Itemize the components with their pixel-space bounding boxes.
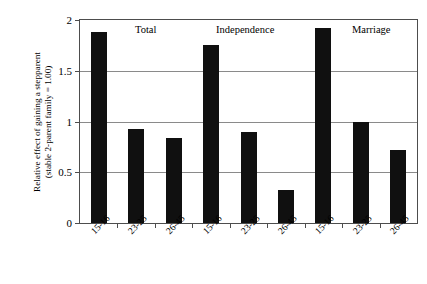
plot-area: 00.511.52 Total Independence Marriage xyxy=(79,19,418,224)
y-axis-tick-label: 1.5 xyxy=(58,65,72,77)
y-axis-tick xyxy=(75,223,80,224)
bar xyxy=(203,45,219,223)
bar xyxy=(166,138,182,223)
x-axis-tick xyxy=(117,223,118,228)
bar xyxy=(128,129,144,223)
group-label-independence: Independence xyxy=(216,24,274,35)
x-axis-tick xyxy=(380,223,381,228)
y-axis-tick xyxy=(75,71,80,72)
y-axis-tick-label: 1 xyxy=(67,116,73,128)
y-axis-tick xyxy=(75,20,80,21)
group-label-total: Total xyxy=(135,24,156,35)
y-axis-title-line-2: (stable 2-parent family = 1.00) xyxy=(43,66,54,179)
y-axis-title: Relative effect of gaining a stepparent … xyxy=(26,17,60,227)
y-axis-tick-label: 0 xyxy=(67,217,73,229)
bar xyxy=(390,150,406,223)
bar xyxy=(91,32,107,223)
x-axis-tick xyxy=(305,223,306,228)
y-axis-tick xyxy=(75,122,80,123)
bar xyxy=(353,122,369,224)
x-axis-tick xyxy=(342,223,343,228)
x-axis-tick xyxy=(155,223,156,228)
bar xyxy=(315,28,331,223)
group-label-marriage: Marriage xyxy=(352,24,390,35)
y-axis-tick-label: 0.5 xyxy=(58,166,72,178)
bar xyxy=(241,132,257,223)
x-axis-tick xyxy=(192,223,193,228)
x-axis-tick xyxy=(267,223,268,228)
y-axis-title-line-1: Relative effect of gaining a stepparent xyxy=(32,52,43,192)
y-axis-tick xyxy=(75,172,80,173)
chart-figure: Relative effect of gaining a stepparent … xyxy=(0,0,427,284)
x-axis-tick xyxy=(230,223,231,228)
gridline xyxy=(80,71,417,72)
y-axis-tick-label: 2 xyxy=(67,14,73,26)
